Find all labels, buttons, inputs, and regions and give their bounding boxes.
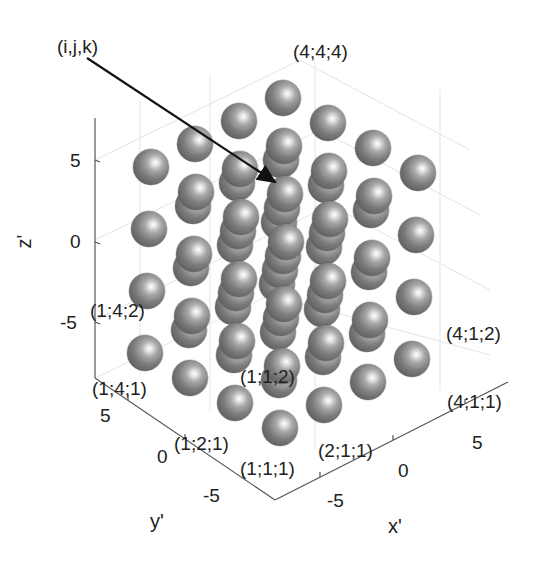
z-tick-0: 0 xyxy=(70,231,81,253)
point-label-412: (4;1;2) xyxy=(446,323,501,345)
x-tick-5: 5 xyxy=(472,432,483,454)
point-label-444: (4;4;4) xyxy=(293,41,348,63)
y-axis-title: y' xyxy=(150,510,164,533)
point-label-411: (4;1;1) xyxy=(447,391,502,413)
z-tick-neg5: -5 xyxy=(60,312,77,334)
point-label-141: (1;4;1) xyxy=(92,378,147,400)
x-tick-0: 0 xyxy=(398,460,409,482)
annotation-arrow xyxy=(0,0,541,567)
point-label-121: (1;2;1) xyxy=(174,433,229,455)
y-tick-0: 0 xyxy=(157,446,168,468)
x-axis-title: x' xyxy=(388,515,402,538)
point-label-142: (1;4;2) xyxy=(90,300,145,322)
annotation-label: (i,j,k) xyxy=(57,36,98,58)
z-tick-5: 5 xyxy=(70,150,81,172)
point-label-111: (1;1;1) xyxy=(240,458,295,480)
point-label-112: (1;1;2) xyxy=(240,366,295,388)
x-tick-neg5: -5 xyxy=(327,490,344,512)
y-tick-neg5: -5 xyxy=(203,485,220,507)
z-axis-title: z' xyxy=(13,235,36,249)
point-label-211: (2;1;1) xyxy=(318,440,373,462)
lattice-plot: (i,j,k) (4;4;4) (1;4;2) (4;1;2) (1;4;1) … xyxy=(0,0,541,567)
y-tick-5: 5 xyxy=(100,405,111,427)
